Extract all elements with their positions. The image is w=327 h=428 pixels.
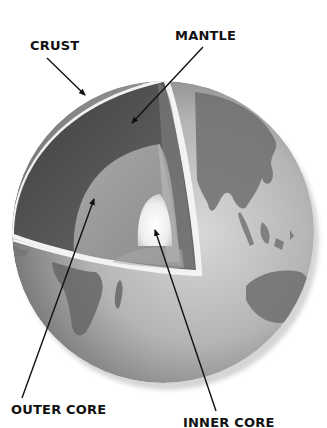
label-outer-core: OUTER CORE (11, 403, 106, 416)
label-mantle: MANTLE (175, 29, 236, 42)
crust-pointer-arrow (47, 58, 85, 95)
earth-layers-diagram (0, 0, 327, 428)
label-inner-core: INNER CORE (183, 416, 275, 428)
globe (12, 78, 314, 383)
cutaway-wedge (12, 78, 202, 276)
label-crust: CRUST (30, 39, 79, 52)
